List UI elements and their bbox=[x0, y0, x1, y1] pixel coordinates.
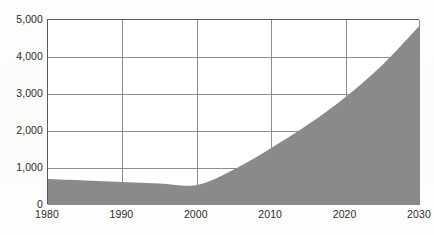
plot-area bbox=[47, 19, 419, 204]
y-axis-tick-label: 5,000 bbox=[16, 14, 43, 24]
y-axis-tick-label: 2,000 bbox=[16, 125, 43, 135]
x-axis-tick-labels: 198019902000201020202030 bbox=[0, 209, 434, 229]
x-axis-tick-label: 2000 bbox=[184, 209, 208, 220]
y-axis-tick-label: 4,000 bbox=[16, 51, 43, 61]
x-axis-tick-label: 2030 bbox=[407, 209, 431, 220]
y-axis-tick-labels: 01,0002,0003,0004,0005,000 bbox=[0, 0, 43, 235]
x-axis-tick-label: 1980 bbox=[35, 209, 59, 220]
x-axis-tick-label: 1990 bbox=[110, 209, 134, 220]
y-axis-tick-label: 1,000 bbox=[16, 162, 43, 172]
chart-page: 01,0002,0003,0004,0005,000 1980199020002… bbox=[0, 0, 434, 235]
area-series bbox=[48, 20, 420, 205]
y-axis-tick-label: 3,000 bbox=[16, 88, 43, 98]
area-series-path bbox=[48, 25, 420, 205]
x-axis-tick-label: 2010 bbox=[258, 209, 282, 220]
x-axis-tick-label: 2020 bbox=[333, 209, 357, 220]
